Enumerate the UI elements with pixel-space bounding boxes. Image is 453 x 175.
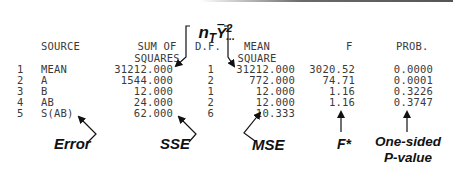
arrow-error-icon bbox=[79, 117, 96, 142]
annotation-arrows bbox=[0, 0, 453, 175]
bracket-arrow-right-icon bbox=[224, 26, 234, 66]
arrow-sse-icon bbox=[179, 117, 196, 142]
bracket-arrow-left-icon bbox=[176, 26, 190, 66]
arrow-mse-icon bbox=[244, 113, 260, 141]
